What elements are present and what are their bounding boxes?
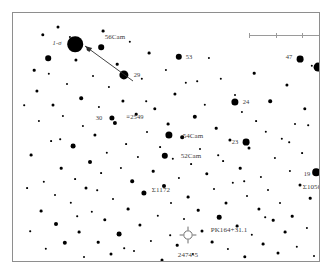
label-2549: ≡2549 xyxy=(126,114,143,121)
label-53: 53 xyxy=(186,54,193,61)
label-2474-5: 2474-5 xyxy=(178,252,198,259)
label-24: 24 xyxy=(243,99,250,106)
label-23: 23 xyxy=(232,139,239,146)
label-sigma1050: Σ1050 xyxy=(303,184,320,191)
label-one-sigma: 1-σ xyxy=(53,40,62,47)
label-30: 30 xyxy=(96,115,103,122)
label-sigma1172: Σ1172 xyxy=(152,187,170,194)
label-29: 29 xyxy=(134,72,141,79)
label-19: 19 xyxy=(304,171,311,178)
label-56cam: 56Cam xyxy=(105,34,126,41)
star-chart-root: 1-σ56Cam5347182930≡25492454Cam2352CamΣ11… xyxy=(0,0,332,276)
label-52cam: 52Cam xyxy=(181,153,202,160)
label-pk164: PK164+31.1 xyxy=(211,227,248,234)
pointer-arrow-icon xyxy=(13,13,320,262)
label-54cam: 54Cam xyxy=(183,133,204,140)
sky-field-frame: 1-σ56Cam5347182930≡25492454Cam2352CamΣ11… xyxy=(12,12,320,262)
label-47: 47 xyxy=(286,54,293,61)
